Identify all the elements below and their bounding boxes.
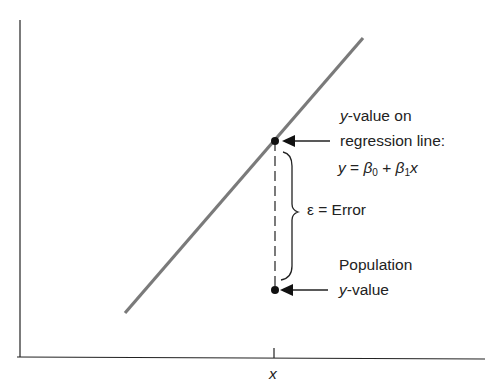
error-brace: [281, 152, 298, 280]
regression-point: [271, 137, 279, 145]
x-axis: [17, 357, 485, 359]
x-axis-label: x: [269, 366, 277, 382]
label-population: Population: [339, 257, 412, 273]
label-population-y-value: y-value: [339, 282, 389, 298]
arrow-to-regression-point: [282, 135, 330, 147]
label-regression-line: regression line:: [340, 133, 445, 149]
label-y-value-on: y-value on: [340, 108, 412, 124]
label-equation: y = β0 + β1x: [338, 160, 418, 178]
population-point: [271, 286, 279, 294]
label-error: ε = Error: [307, 202, 366, 218]
arrow-to-population-point: [280, 284, 328, 296]
regression-line: [125, 38, 363, 313]
regression-diagram: [0, 0, 491, 386]
